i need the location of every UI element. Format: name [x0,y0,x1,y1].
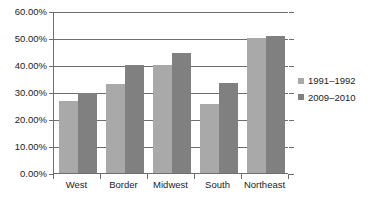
legend-swatch-icon [298,78,304,84]
bar-group [200,12,238,173]
x-axis-tick-label: West [66,179,87,190]
x-axis-tick [194,174,195,179]
y-axis-tick-label: 30.00% [0,88,47,98]
plot-area [53,12,288,174]
bar-group [59,12,97,173]
y-axis-tick-label: 40.00% [0,61,47,71]
bar [172,53,191,173]
y-axis-tick [49,66,54,67]
y-axis-tick-label: 50.00% [0,34,47,44]
bar [106,84,125,173]
x-axis-tick [100,174,101,179]
bar-chart: 0.00%10.00%20.00%30.00%40.00%50.00%60.00… [0,0,376,204]
y-axis-tick [49,93,54,94]
y-axis-tick-right [289,93,294,94]
y-axis-tick [49,147,54,148]
bar [200,104,219,173]
bar [247,38,266,173]
y-axis-tick-label: 10.00% [0,142,47,152]
y-axis-tick-label: 20.00% [0,115,47,125]
x-axis-tick [147,174,148,179]
y-axis-tick-right [289,39,294,40]
x-axis-tick-label: Border [109,179,138,190]
legend-item[interactable]: 2009–2010 [298,93,356,103]
y-axis-tick [49,12,54,13]
bar [153,65,172,173]
y-axis-tick-right [289,66,294,67]
x-axis-tick-label: Northeast [244,179,285,190]
y-axis-tick-right [289,174,294,175]
legend-label: 1991–1992 [308,76,356,86]
y-axis-tick-label: 60.00% [0,7,47,17]
y-axis-tick [49,39,54,40]
bar-group [106,12,144,173]
bar [78,93,97,173]
x-axis-tick [53,174,54,179]
y-axis-tick-right [289,120,294,121]
bar-group [153,12,191,173]
x-axis-tick [288,174,289,179]
bar [266,36,285,173]
bar [219,83,238,173]
bar [125,65,144,173]
chart-legend: 1991–19922009–2010 [298,76,356,109]
y-axis-tick-right [289,147,294,148]
x-axis-tick [241,174,242,179]
legend-swatch-icon [298,94,304,100]
x-axis-tick-label: South [205,179,230,190]
bar-group [247,12,285,173]
legend-item[interactable]: 1991–1992 [298,76,356,86]
bar [59,101,78,173]
x-axis-tick-label: Midwest [153,179,188,190]
legend-label: 2009–2010 [308,93,356,103]
y-axis-tick [49,120,54,121]
y-axis-tick-right [289,12,294,13]
y-axis-tick-label: 0.00% [0,169,47,179]
